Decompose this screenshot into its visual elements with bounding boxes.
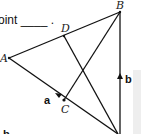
arrow-b-icon xyxy=(117,73,123,79)
label-C: C xyxy=(61,103,70,116)
label-D: D xyxy=(60,22,70,35)
label-B: B xyxy=(115,0,124,12)
question-prompt: oint ____ . xyxy=(0,13,54,27)
bottom-b-label: b xyxy=(3,128,10,134)
geometry-diagram: oint ____ . A B C D a b b xyxy=(0,0,141,134)
side-panel xyxy=(133,70,141,134)
point-D-dot xyxy=(63,35,65,37)
point-A-dot xyxy=(8,57,10,59)
segment-AE xyxy=(9,58,118,134)
segment-DE xyxy=(64,36,118,134)
vector-b-label: b xyxy=(125,73,132,85)
label-A: A xyxy=(0,52,8,65)
point-C-dot xyxy=(62,98,65,101)
vector-a-label: a xyxy=(44,94,51,106)
